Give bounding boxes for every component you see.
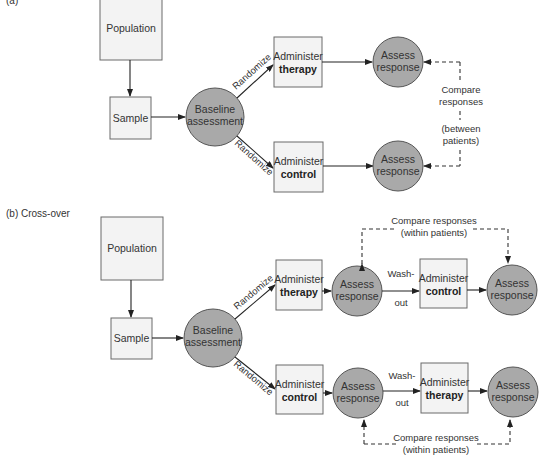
administer-control-box	[274, 142, 323, 192]
randomize-lower-label-b: Randomize	[232, 358, 276, 397]
study-design-diagram: (a) Population Sample Baseline assessmen…	[0, 0, 540, 464]
panel-a-parallel: (a) Population Sample Baseline assessmen…	[6, 0, 483, 192]
administer-therapy-text-2: therapy	[279, 63, 317, 75]
compare-text-4: patients)	[443, 135, 479, 146]
upper-assess-1-text-1: Assess	[340, 278, 374, 290]
upper-second-text-2: control	[426, 285, 462, 297]
lower-administer-therapy-box	[421, 363, 468, 413]
sample-text-b: Sample	[114, 332, 150, 344]
compare-text-2: responses	[439, 96, 483, 107]
administer-therapy-text-1: Administer	[273, 50, 323, 62]
baseline-text-1: Baseline	[195, 103, 235, 115]
lower-washout-text-2: out	[395, 397, 409, 408]
baseline-text-b-1: Baseline	[193, 324, 233, 336]
administer-control-text-1: Administer	[274, 155, 324, 167]
compare-text-3: (between	[441, 123, 480, 134]
lower-compare-text-1: Compare responses	[393, 432, 479, 443]
administer-therapy-box	[274, 37, 322, 87]
population-text-b: Population	[107, 242, 157, 254]
assess-text-4: response	[376, 165, 419, 177]
compare-between-dashed-connector	[424, 62, 460, 166]
lower-assess-1-text-1: Assess	[341, 380, 375, 392]
panel-a-label: (a)	[6, 0, 18, 6]
randomize-lower-label: Randomize	[233, 137, 276, 177]
lower-washout-text-1: Wash-	[388, 370, 415, 381]
upper-first-text-1: Administer	[274, 273, 324, 285]
upper-washout-text-2: out	[394, 297, 408, 308]
upper-assess-2-text-2: response	[490, 289, 533, 301]
upper-assess-2-text-1: Assess	[495, 277, 529, 289]
lower-assess-2-text-2: response	[491, 391, 534, 403]
lower-second-text-2: therapy	[426, 389, 464, 401]
lower-compare-text-2: (within patients)	[403, 444, 470, 455]
baseline-text-2: assessment	[187, 115, 243, 127]
administer-control-text-2: control	[281, 168, 317, 180]
lower-second-text-1: Administer	[420, 376, 470, 388]
randomize-upper-label-b: Randomize	[231, 272, 275, 311]
upper-compare-text-1: Compare responses	[391, 215, 477, 226]
upper-compare-text-2: (within patients)	[401, 227, 468, 238]
assess-text-2: response	[376, 61, 419, 73]
sample-text: Sample	[113, 112, 149, 124]
compare-text-1: Compare	[441, 84, 480, 95]
baseline-text-b-2: assessment	[185, 336, 241, 348]
upper-assess-1-text-2: response	[335, 290, 378, 302]
lower-assess-2-text-1: Assess	[496, 379, 530, 391]
upper-administer-therapy-box	[276, 260, 322, 310]
population-text: Population	[106, 22, 156, 34]
assess-text-3: Assess	[381, 153, 415, 165]
lower-first-text-2: control	[282, 391, 318, 403]
upper-first-text-2: therapy	[280, 286, 318, 298]
upper-second-text-1: Administer	[419, 272, 469, 284]
lower-first-text-1: Administer	[275, 378, 325, 390]
panel-b-label: (b) Cross-over	[6, 208, 71, 219]
upper-washout-text-1: Wash-	[387, 268, 414, 279]
lower-assess-1-text-2: response	[336, 392, 379, 404]
assess-text-1: Assess	[381, 49, 415, 61]
panel-b-crossover: (b) Cross-over Population Sample Baselin…	[6, 208, 538, 455]
